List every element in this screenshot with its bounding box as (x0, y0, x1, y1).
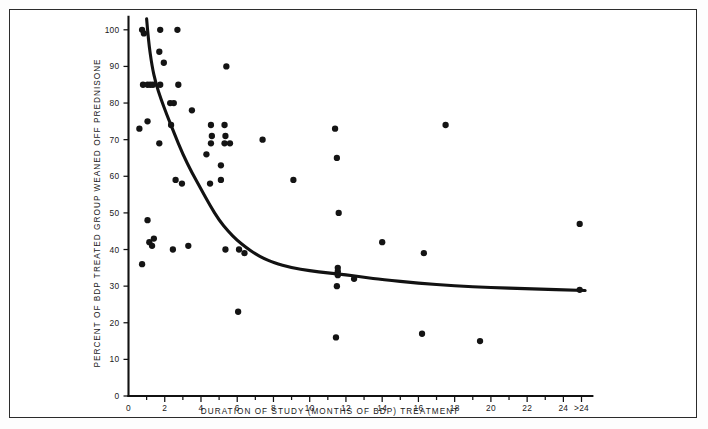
data-point (168, 122, 174, 128)
data-point (150, 82, 156, 88)
data-point (227, 140, 233, 146)
y-tick-label: 50 (110, 208, 120, 218)
y-tick-label: 30 (110, 281, 120, 291)
data-point (139, 261, 145, 267)
data-point (174, 27, 180, 33)
data-point (209, 133, 215, 139)
data-point (577, 287, 583, 293)
data-point (241, 250, 247, 256)
x-tick-label: 20 (486, 403, 496, 413)
data-point (221, 140, 227, 146)
data-point (235, 309, 241, 315)
data-point (141, 30, 147, 36)
data-points-group (136, 27, 583, 345)
y-tick-label: 70 (110, 135, 120, 145)
data-point (144, 118, 150, 124)
x-tick-label: 12 (341, 403, 351, 413)
data-point (333, 334, 339, 340)
x-tick-label: 10 (305, 403, 315, 413)
data-point (334, 155, 340, 161)
y-tick-group: 0102030405060708090100 (105, 25, 129, 401)
data-point (156, 140, 162, 146)
x-tick-label: 2 (162, 403, 167, 413)
fit-curve-group (147, 19, 586, 291)
data-point (336, 210, 342, 216)
data-point (179, 180, 185, 186)
x-tick-label: 22 (522, 403, 532, 413)
data-point (156, 49, 162, 55)
y-tick-label: 10 (110, 354, 120, 364)
x-tick-label: 6 (235, 403, 240, 413)
data-point (379, 239, 385, 245)
x-tick-label: 16 (413, 403, 423, 413)
data-point (290, 177, 296, 183)
data-point (172, 177, 178, 183)
chart-svg: PERCENT OF BDP TREATED GROUP WEANED OFF … (0, 0, 708, 429)
x-tick-label: >24 (574, 403, 589, 413)
data-point (203, 151, 209, 157)
data-point (334, 283, 340, 289)
data-point (421, 250, 427, 256)
data-point (144, 217, 150, 223)
data-point (208, 122, 214, 128)
data-point (218, 177, 224, 183)
data-point (332, 126, 338, 132)
data-point (442, 122, 448, 128)
data-point (577, 221, 583, 227)
data-point (157, 82, 163, 88)
x-tick-label: 0 (126, 403, 131, 413)
x-tick-label: 18 (450, 403, 460, 413)
data-point (221, 122, 227, 128)
data-point (222, 133, 228, 139)
y-tick-label: 60 (110, 171, 120, 181)
data-point (335, 272, 341, 278)
data-point (185, 243, 191, 249)
data-point (151, 235, 157, 241)
data-point (189, 107, 195, 113)
scatter-plot-figure: PERCENT OF BDP TREATED GROUP WEANED OFF … (0, 0, 708, 429)
y-tick-label: 40 (110, 245, 120, 255)
data-point (208, 140, 214, 146)
figure-page: PERCENT OF BDP TREATED GROUP WEANED OFF … (0, 0, 708, 429)
axes-group (129, 17, 593, 396)
data-point (351, 276, 357, 282)
data-point (175, 82, 181, 88)
data-point (171, 100, 177, 106)
y-axis-title: PERCENT OF BDP TREATED GROUP WEANED OFF … (93, 58, 102, 367)
data-point (259, 137, 265, 143)
data-point (136, 126, 142, 132)
data-point (218, 162, 224, 168)
data-point (157, 27, 163, 33)
data-point (419, 331, 425, 337)
data-point (477, 338, 483, 344)
y-tick-label: 20 (110, 318, 120, 328)
data-point (223, 63, 229, 69)
y-tick-label: 100 (105, 25, 120, 35)
data-point (161, 60, 167, 66)
x-tick-label: 14 (377, 403, 387, 413)
data-point (222, 246, 228, 252)
y-tick-label: 90 (110, 61, 120, 71)
y-tick-label: 0 (115, 391, 120, 401)
y-tick-label: 80 (110, 98, 120, 108)
data-point (236, 246, 242, 252)
x-tick-label: 8 (271, 403, 276, 413)
x-tick-label: 24 (558, 403, 568, 413)
x-tick-label: 4 (198, 403, 203, 413)
data-point (207, 180, 213, 186)
data-point (149, 243, 155, 249)
data-point (170, 246, 176, 252)
fit-curve (147, 19, 586, 291)
